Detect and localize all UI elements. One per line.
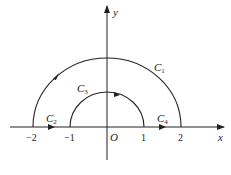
label-c1: C1 xyxy=(154,61,165,75)
tick-label-2: 2 xyxy=(178,132,183,143)
x-axis-label: x xyxy=(217,131,223,143)
label-c2: C2 xyxy=(46,112,57,126)
contour-diagram: y x O −2 −1 1 2 C1 C2 C3 C4 xyxy=(0,0,231,175)
y-axis-label: y xyxy=(112,6,118,18)
label-c4: C4 xyxy=(157,112,168,126)
tick-label-1: 1 xyxy=(141,132,146,143)
tick-label-neg2: −2 xyxy=(26,132,37,143)
tick-label-neg1: −1 xyxy=(64,132,75,143)
origin-label: O xyxy=(110,131,118,143)
label-c3: C3 xyxy=(77,82,88,96)
diagram-canvas: y x O −2 −1 1 2 C1 C2 C3 C4 xyxy=(0,0,231,175)
c1-direction-arrow-icon xyxy=(53,73,59,80)
